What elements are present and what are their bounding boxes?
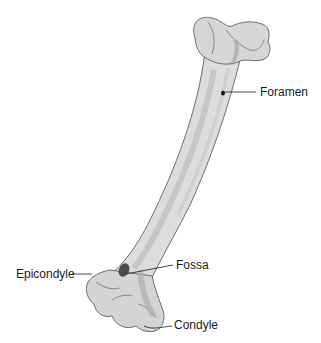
label-condyle: Condyle bbox=[174, 318, 218, 332]
foramen-mark bbox=[221, 91, 225, 96]
label-epicondyle: Epicondyle bbox=[16, 267, 75, 281]
label-foramen: Foramen bbox=[260, 85, 308, 99]
bone-proximal-head bbox=[194, 17, 270, 64]
bone-illustration bbox=[0, 0, 321, 343]
bone-shaft bbox=[110, 52, 240, 282]
bone-diagram: Foramen Fossa Epicondyle Condyle bbox=[0, 0, 321, 343]
bone-distal-end bbox=[86, 270, 164, 332]
label-fossa: Fossa bbox=[176, 258, 209, 272]
